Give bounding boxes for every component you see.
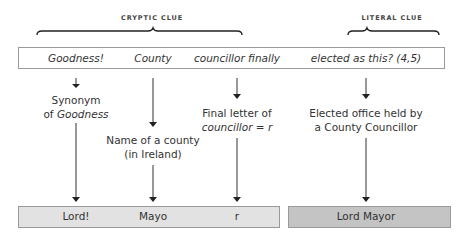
arrow-down-icon (233, 94, 241, 99)
explanation-line: councillor = r (202, 120, 273, 134)
clue-part-literal: elected as this? (4,5) (311, 52, 421, 64)
arrow-down-icon (72, 197, 80, 202)
explanation-line: (in Ireland) (106, 147, 199, 161)
explanation-line: Final letter of (202, 106, 273, 120)
arrow-down-icon (233, 197, 241, 202)
arrow-down-icon (149, 197, 157, 202)
answer-r: r (235, 210, 239, 222)
arrow-down-icon (72, 84, 80, 88)
cryptic-brace-icon (37, 28, 242, 35)
explanation-line: Synonym (43, 93, 108, 107)
explanation-line: Elected office held by (309, 106, 422, 120)
explanation-line: Name of a county (106, 133, 199, 147)
explanation-county: Name of a county (in Ireland) (106, 133, 199, 161)
explanation-line: of Goodness (43, 107, 108, 121)
arrow-down-icon (362, 197, 370, 202)
arrow-down-icon (362, 94, 370, 99)
answer-mayo: Mayo (139, 210, 167, 222)
explanation-literal: Elected office held by a County Councill… (309, 106, 422, 134)
text-italic: = r (252, 121, 272, 133)
explanation-goodness: Synonym of Goodness (43, 93, 108, 121)
answer-lord-mayor: Lord Mayor (337, 210, 396, 222)
answer-lord: Lord! (62, 210, 89, 222)
arrow-down-icon (149, 122, 157, 127)
clue-part-goodness: Goodness! (48, 52, 104, 64)
explanation-councillor: Final letter of councillor = r (202, 106, 273, 134)
text-italic: councillor (202, 121, 253, 133)
text: of (43, 108, 56, 120)
clue-part-county: County (134, 52, 171, 64)
literal-brace-icon (348, 28, 439, 35)
text-italic: Goodness (57, 108, 109, 120)
clue-part-councillor-finally: councillor finally (194, 52, 280, 64)
explanation-line: a County Councillor (309, 120, 422, 134)
